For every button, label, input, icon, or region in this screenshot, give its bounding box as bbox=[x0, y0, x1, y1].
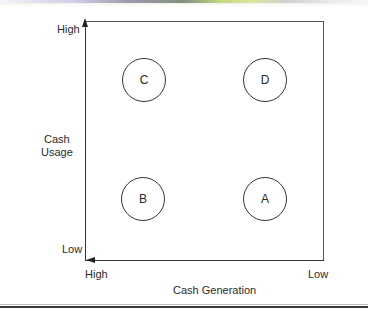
x-axis-title: Cash Generation bbox=[173, 284, 256, 297]
quadrant-label-d: D bbox=[261, 73, 270, 87]
y-axis-high-label: High bbox=[57, 23, 80, 36]
arrow-up-icon bbox=[82, 18, 88, 27]
top-strip-fade bbox=[0, 3, 368, 7]
matrix-frame bbox=[85, 21, 324, 261]
quadrant-circle-b: B bbox=[121, 177, 165, 221]
y-axis-title-line1: Cash bbox=[44, 133, 70, 146]
x-axis-low-label: Low bbox=[308, 268, 328, 281]
quadrant-label-a: A bbox=[261, 192, 269, 206]
quadrant-circle-a: A bbox=[243, 177, 287, 221]
x-axis-line bbox=[85, 260, 324, 261]
y-axis-title-line2: Usage bbox=[41, 146, 73, 159]
bottom-rule-shadow bbox=[0, 304, 368, 305]
y-axis-line bbox=[85, 21, 86, 261]
quadrant-circle-d: D bbox=[243, 58, 287, 102]
quadrant-circle-c: C bbox=[122, 58, 166, 102]
quadrant-label-c: C bbox=[140, 73, 149, 87]
x-axis-high-label: High bbox=[85, 268, 108, 281]
arrow-left-icon bbox=[86, 257, 95, 263]
quadrant-label-b: B bbox=[139, 192, 147, 206]
y-axis-low-label: Low bbox=[62, 243, 82, 256]
bottom-rule bbox=[0, 306, 368, 308]
